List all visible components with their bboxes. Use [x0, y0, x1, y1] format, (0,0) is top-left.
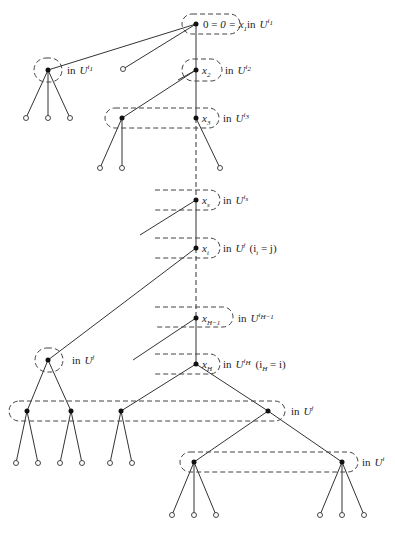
node-xH-1	[194, 316, 199, 321]
label-x3-set: inUi3	[223, 111, 249, 124]
label-bottom-wide-set: inUj	[291, 404, 314, 417]
label-xt-set: inUj(it = j)	[223, 241, 277, 257]
label-xH: xH	[201, 358, 213, 373]
label-xH-1: xH−1	[201, 312, 220, 327]
node-x3-left	[120, 116, 125, 121]
label-x3: x3	[201, 112, 211, 127]
label-xH-1-set: inUiH−1	[238, 311, 274, 324]
tree-edges	[16, 24, 364, 515]
label-left-top-set: inUi1	[67, 63, 93, 76]
label-bottom-right-set: inUi	[362, 455, 385, 468]
label-x2-set: inUi2	[225, 63, 251, 76]
label-left-mid-set: inUj	[72, 353, 95, 366]
node-bw-2	[69, 409, 74, 414]
infoset-bottom-wide	[9, 401, 285, 421]
node-right	[266, 409, 271, 414]
node-bw-3	[119, 409, 124, 414]
game-tree-diagram: 0 = 0 = x1 inUi1 inUi1 x2 inUi2 x3 inUi3…	[0, 0, 395, 533]
decision-nodes	[25, 22, 345, 465]
label-xt: xt	[201, 242, 210, 257]
node-xH	[194, 362, 199, 367]
label-x1-set: inUi1	[247, 17, 273, 30]
label-x2: x2	[201, 64, 211, 79]
node-left-mid	[46, 358, 51, 363]
label-xs-set: inUis	[223, 193, 248, 206]
label-xH-set: inUiH(iH = i)	[223, 357, 286, 373]
node-x3	[194, 116, 199, 121]
label-xs: xs	[201, 194, 210, 209]
leaf-nodes	[14, 67, 367, 518]
infoset-xs	[155, 190, 220, 210]
node-left-top	[46, 68, 51, 73]
node-bw-1	[25, 409, 30, 414]
node-br-2	[340, 460, 345, 465]
node-br-1	[192, 460, 197, 465]
node-xt	[194, 246, 199, 251]
information-sets	[9, 14, 358, 472]
labels: 0 = 0 = x1 inUi1 inUi1 x2 inUi2 x3 inUi3…	[67, 17, 385, 468]
node-x1	[194, 22, 199, 27]
node-xs	[194, 198, 199, 203]
label-x1: 0 = 0 = x1	[203, 18, 247, 33]
node-x2	[194, 68, 199, 73]
